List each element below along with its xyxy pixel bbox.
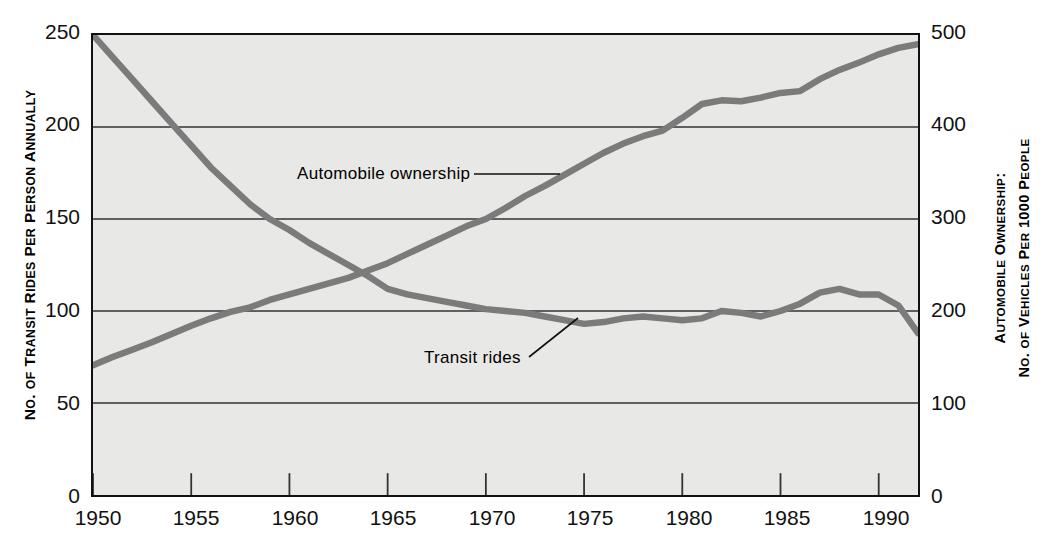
x-tick-1950: 1950 xyxy=(50,506,146,530)
y-axis-left-title-text: NO. OF TRANSIT RIDES PER PERSON ANNUALLY xyxy=(21,90,38,421)
y-axis-left-title: NO. OF TRANSIT RIDES PER PERSON ANNUALLY xyxy=(21,20,39,490)
annotation-transit-rides: Transit rides xyxy=(424,348,521,368)
y-tick-left-100: 100 xyxy=(20,298,80,322)
y-axis-right-title-line1: AUTOMOBILE OWNERSHIP: xyxy=(992,23,1008,493)
x-tick-1965: 1965 xyxy=(345,506,441,530)
y-axis-right-title-line2: NO. OF VEHICLES PER 1000 PEOPLE xyxy=(1016,23,1032,493)
y-tick-left-200: 200 xyxy=(20,112,80,136)
y-tick-left-250: 250 xyxy=(20,20,80,44)
x-tick-1980: 1980 xyxy=(641,506,737,530)
x-tick-1960: 1960 xyxy=(247,506,343,530)
series-line-transit-rides xyxy=(93,35,918,333)
chart-figure: NO. OF TRANSIT RIDES PER PERSON ANNUALLY… xyxy=(0,0,1043,558)
x-tick-1955: 1955 xyxy=(148,506,244,530)
y-tick-right-300: 300 xyxy=(931,205,993,229)
y-tick-right-0: 0 xyxy=(931,484,993,508)
y-tick-right-400: 400 xyxy=(931,112,993,136)
y-tick-left-150: 150 xyxy=(20,205,80,229)
series-line-automobile-ownership xyxy=(93,44,918,365)
y-tick-right-100: 100 xyxy=(931,391,993,415)
x-tick-1970: 1970 xyxy=(444,506,540,530)
x-tick-1985: 1985 xyxy=(739,506,835,530)
y-tick-right-500: 500 xyxy=(931,20,993,44)
y-tick-right-200: 200 xyxy=(931,298,993,322)
y-tick-left-0: 0 xyxy=(20,484,80,508)
x-tick-marks xyxy=(93,473,879,495)
annotation-automobile-ownership: Automobile ownership xyxy=(297,164,470,184)
plot-area xyxy=(91,33,920,497)
x-tick-1975: 1975 xyxy=(542,506,638,530)
plot-canvas xyxy=(93,35,918,495)
x-tick-1990: 1990 xyxy=(838,506,934,530)
y-tick-left-50: 50 xyxy=(20,391,80,415)
